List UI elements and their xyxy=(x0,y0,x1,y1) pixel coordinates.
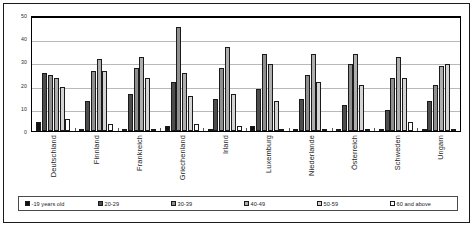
x-axis-tick-label: Irland xyxy=(220,135,229,154)
x-axis-label-cell: Griechenland xyxy=(160,134,203,192)
bar xyxy=(348,64,353,131)
bar xyxy=(353,54,358,131)
bar-group xyxy=(374,18,417,131)
y-axis-tick-label: 50 xyxy=(21,13,27,19)
bar xyxy=(165,126,170,131)
bar xyxy=(262,54,267,131)
x-axis-label-cell: Frankreich xyxy=(117,134,160,192)
bar xyxy=(408,122,413,131)
bar xyxy=(390,78,395,131)
chart-legend: -19 years old20-2930-3940-4950-5960 and … xyxy=(18,196,458,211)
x-axis-tick-label: Schweden xyxy=(392,135,401,170)
x-axis-label-cell: Luxemburg xyxy=(246,134,289,192)
legend-item: 40-49 xyxy=(238,201,311,207)
bar xyxy=(385,110,390,131)
bar xyxy=(305,75,310,131)
bar xyxy=(208,129,213,131)
bar xyxy=(188,96,193,131)
y-axis-tick-label: 10 xyxy=(21,106,27,112)
legend-swatch-icon xyxy=(171,201,176,206)
legend-swatch-icon xyxy=(25,201,30,206)
bar xyxy=(299,99,304,131)
legend-label: 50-59 xyxy=(324,201,339,207)
x-axis-label-cell: Schweden xyxy=(375,134,418,192)
bar xyxy=(365,129,370,131)
bar xyxy=(36,122,41,131)
legend-label: 60 and above xyxy=(397,201,432,207)
x-axis-tick-label: Ungarn xyxy=(435,135,444,160)
bar xyxy=(379,129,384,131)
x-axis-label-cell: Finnland xyxy=(74,134,117,192)
x-axis-tick-label: Luxemburg xyxy=(263,135,272,173)
bar xyxy=(97,59,102,131)
bar xyxy=(293,129,298,131)
bar-group xyxy=(203,18,246,131)
bar xyxy=(182,73,187,131)
bar xyxy=(48,75,53,131)
bar xyxy=(219,68,224,131)
chart-outer-frame: 01020304050 DeutschlandFinnlandFrankreic… xyxy=(3,3,470,223)
bar xyxy=(433,85,438,131)
bar xyxy=(122,129,127,131)
legend-label: 40-49 xyxy=(251,201,266,207)
plot-wrapper xyxy=(31,16,461,132)
bar xyxy=(439,66,444,131)
bar xyxy=(237,126,242,131)
bar xyxy=(42,73,47,131)
bar xyxy=(171,82,176,131)
legend-label: 20-29 xyxy=(105,201,120,207)
bar xyxy=(139,57,144,131)
x-axis-tick-label: Deutschland xyxy=(48,135,57,177)
bar-series-layer xyxy=(32,18,460,131)
legend-label: -19 years old xyxy=(32,201,65,207)
bar xyxy=(427,101,432,131)
bar xyxy=(279,129,284,131)
legend-swatch-icon xyxy=(98,201,103,206)
x-axis-tick-label: Frankreich xyxy=(134,135,143,171)
x-axis-label-cell: Irland xyxy=(203,134,246,192)
legend-label: 30-39 xyxy=(178,201,193,207)
bar xyxy=(250,126,255,131)
bar xyxy=(65,119,70,131)
x-axis-tick-label: Finnland xyxy=(91,135,100,164)
bar xyxy=(322,129,327,131)
legend-item: 30-39 xyxy=(165,201,238,207)
x-axis-label-cell: Ungarn xyxy=(418,134,461,192)
bar xyxy=(213,99,218,131)
bar xyxy=(194,124,199,131)
bar xyxy=(451,129,456,131)
bar-group xyxy=(332,18,375,131)
bar xyxy=(359,85,364,131)
y-axis-tick-label: 0 xyxy=(24,129,27,135)
legend-swatch-icon xyxy=(390,201,395,206)
y-axis-tick-label: 40 xyxy=(21,36,27,42)
bar-group xyxy=(32,18,75,131)
x-axis-category-labels: DeutschlandFinnlandFrankreichGriechenlan… xyxy=(31,134,461,192)
bar xyxy=(445,64,450,131)
x-axis-tick-label: Österreich xyxy=(349,135,358,170)
x-axis-label-cell: Niederlande xyxy=(289,134,332,192)
bar xyxy=(256,89,261,131)
bar xyxy=(128,94,133,131)
bar xyxy=(134,68,139,131)
bar xyxy=(336,129,341,131)
bar xyxy=(311,54,316,131)
bar-group xyxy=(75,18,118,131)
bar xyxy=(91,71,96,131)
legend-item: 20-29 xyxy=(92,201,165,207)
y-axis-tick-label: 30 xyxy=(21,59,27,65)
bar-group xyxy=(246,18,289,131)
bar xyxy=(316,82,321,131)
bar xyxy=(54,78,59,131)
bar-group xyxy=(118,18,161,131)
bar xyxy=(85,101,90,131)
legend-item: -19 years old xyxy=(19,201,92,207)
bar-group xyxy=(160,18,203,131)
legend-swatch-icon xyxy=(244,201,249,206)
bar xyxy=(402,78,407,131)
bar xyxy=(396,57,401,131)
bar xyxy=(79,129,84,131)
bar xyxy=(145,78,150,131)
x-axis-label-cell: Österreich xyxy=(332,134,375,192)
bar xyxy=(342,105,347,131)
